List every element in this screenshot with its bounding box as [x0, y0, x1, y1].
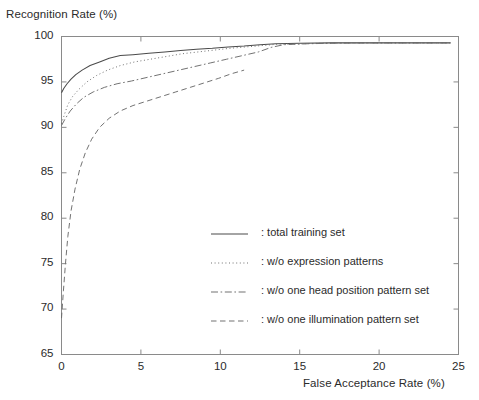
series-line-3	[62, 70, 245, 318]
y-tick-label: 70	[24, 301, 54, 313]
x-tick-label: 0	[47, 360, 77, 372]
y-tick-label: 65	[24, 347, 54, 359]
x-tick-label: 15	[285, 360, 315, 372]
y-tick-label: 95	[24, 74, 54, 86]
chart-plot-area	[0, 0, 479, 400]
legend-label-2: : w/o one head position pattern set	[261, 284, 429, 296]
legend-line-samples	[211, 234, 248, 321]
axes-frame	[62, 37, 459, 355]
x-tick-label: 25	[444, 360, 474, 372]
figure-container: Recognition Rate (%) False Acceptance Ra…	[0, 0, 479, 400]
y-tick-label: 80	[24, 210, 54, 222]
series-line-0	[62, 43, 451, 93]
x-tick-label: 10	[205, 360, 235, 372]
legend-label-3: : w/o one illumination pattern set	[261, 313, 419, 325]
legend-label-0: : total training set	[261, 226, 345, 238]
plot-frame	[62, 37, 459, 355]
y-tick-label: 75	[24, 256, 54, 268]
y-tick-label: 90	[24, 119, 54, 131]
tick-marks	[62, 37, 459, 355]
legend-label-1: : w/o expression patterns	[261, 255, 383, 267]
x-tick-label: 5	[126, 360, 156, 372]
x-tick-label: 20	[364, 360, 394, 372]
data-series-group	[62, 43, 451, 318]
y-tick-label: 100	[24, 29, 54, 41]
y-tick-label: 85	[24, 165, 54, 177]
